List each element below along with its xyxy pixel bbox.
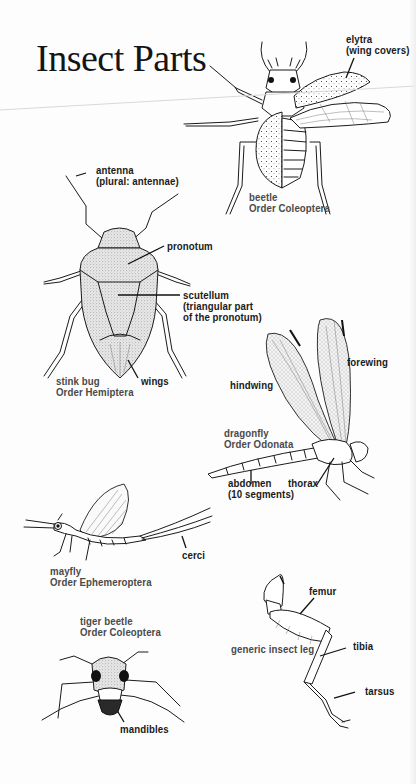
stink-bug-illustration <box>44 173 190 378</box>
label-scutellum-note-2: of the pronotum) <box>183 312 262 324</box>
label-abdomen-note: (10 segments) <box>228 489 294 501</box>
label-mandibles: mandibles <box>120 724 169 736</box>
label-hindwing: hindwing <box>230 380 273 392</box>
caption-beetle-order: Order Coleoptera <box>249 203 330 215</box>
caption-dragonfly-order: Order Odonata <box>224 439 293 451</box>
label-tarsus: tarsus <box>365 686 395 698</box>
label-thorax: thorax <box>288 478 318 490</box>
caption-generic-leg: generic insect leg <box>231 644 314 656</box>
label-wings: wings <box>141 376 169 388</box>
caption-mayfly-order: Order Ephemeroptera <box>50 577 152 589</box>
page-edge-shadow <box>409 0 416 784</box>
book-page: Insect Parts <box>0 0 416 784</box>
label-tibia: tibia <box>353 641 373 653</box>
label-pronotum: pronotum <box>167 241 213 253</box>
tiger-beetle-illustration <box>42 652 184 722</box>
caption-stink-bug-order: Order Hemiptera <box>56 387 134 399</box>
label-femur: femur <box>309 586 336 598</box>
label-cerci: cerci <box>182 550 205 562</box>
label-elytra-note: (wing covers) <box>346 45 409 57</box>
label-antenna-note: (plural: antennae) <box>96 176 179 188</box>
caption-tiger-beetle-order: Order Coleoptera <box>80 627 161 639</box>
beetle-illustration <box>184 42 390 214</box>
dragonfly-illustration <box>208 319 374 500</box>
label-forewing: forewing <box>347 357 388 369</box>
